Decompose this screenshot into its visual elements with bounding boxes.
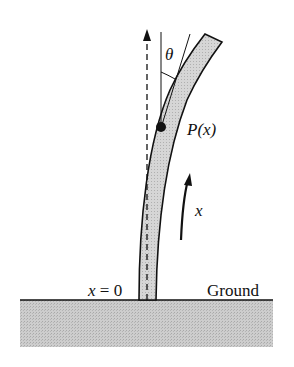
x-axis-label: x <box>194 201 203 220</box>
point-label: P(x) <box>186 120 217 139</box>
x-direction-arrow <box>181 180 188 240</box>
origin-label: x = 0 <box>87 281 122 300</box>
ground-label: Ground <box>207 281 259 300</box>
arrow-head-icon <box>184 173 192 186</box>
ground-block <box>20 300 273 347</box>
theta-label: θ <box>165 45 173 64</box>
bent-pole <box>139 34 222 300</box>
arrow-up-icon <box>143 29 151 41</box>
bent-pole-diagram: θ P(x) x x = 0 Ground <box>0 0 294 367</box>
point-p-marker <box>156 122 166 132</box>
theta-angle-arc <box>161 72 175 79</box>
